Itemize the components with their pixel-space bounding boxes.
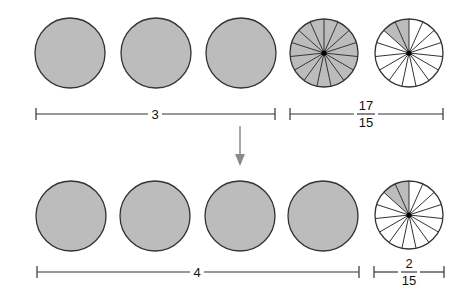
bottom-fraction-numerator: 2 <box>405 256 412 271</box>
whole-circle <box>206 18 276 88</box>
fraction-circle <box>375 181 443 249</box>
whole-circle <box>120 181 190 251</box>
fraction-circle <box>375 19 443 87</box>
whole-circle <box>121 18 191 88</box>
top-whole-circles <box>35 18 276 88</box>
bottom-whole-circles <box>36 181 358 251</box>
whole-circle <box>205 181 275 251</box>
down-arrow-icon <box>235 126 245 166</box>
bottom-fraction-circles <box>375 181 443 249</box>
fraction-circle <box>290 19 358 87</box>
whole-circle <box>35 18 105 88</box>
fraction-diagram: 3 17 15 4 2 15 <box>0 0 470 303</box>
top-whole-label: 3 <box>151 107 158 122</box>
whole-circle <box>288 181 358 251</box>
top-fraction-circles <box>290 19 443 87</box>
top-fraction-denominator: 15 <box>359 115 373 130</box>
bottom-whole-label: 4 <box>193 265 200 280</box>
bottom-fraction-denominator: 15 <box>402 273 416 288</box>
top-fraction-numerator: 17 <box>359 98 373 113</box>
whole-circle <box>36 181 106 251</box>
